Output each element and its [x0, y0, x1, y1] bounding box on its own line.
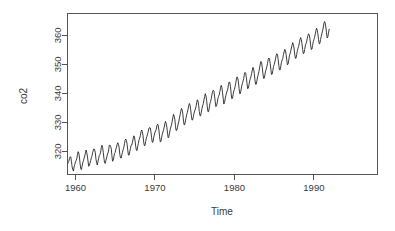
y-tick-label: 330 — [52, 114, 63, 130]
x-tick-label: 1960 — [65, 182, 86, 193]
x-tick-label: 1990 — [303, 182, 324, 193]
y-tick-label: 320 — [52, 143, 63, 159]
x-tick-label: 1970 — [144, 182, 165, 193]
x-axis-title: Time — [211, 206, 233, 217]
co2-time-series-plot: 1960197019801990 320330340350360 Time co… — [0, 0, 395, 231]
y-tick-label: 350 — [52, 56, 63, 72]
y-tick-label: 340 — [52, 85, 63, 101]
chart-canvas: 1960197019801990 320330340350360 Time co… — [0, 0, 395, 231]
y-tick-label: 360 — [52, 27, 63, 43]
x-tick-label: 1980 — [224, 182, 245, 193]
y-axis-title: co2 — [18, 88, 29, 105]
